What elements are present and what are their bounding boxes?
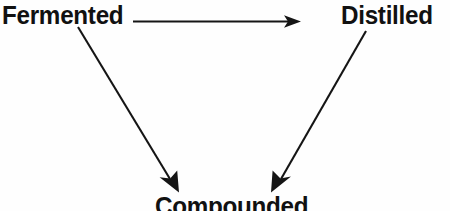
- edge-distilled-to-compounded: [271, 31, 366, 193]
- node-fermented: Fermented: [2, 3, 123, 28]
- node-compounded: Compounded: [155, 194, 308, 211]
- arrow-layer: [0, 0, 450, 211]
- edge-fermented-to-distilled: [133, 15, 301, 28]
- edge-fermented-to-compounded: [78, 27, 179, 193]
- flow-diagram: Fermented Distilled Compounded: [0, 0, 450, 211]
- edge-line-fermented-compounded: [78, 27, 170, 179]
- edge-line-distilled-compounded: [281, 31, 366, 179]
- node-distilled: Distilled: [341, 3, 433, 28]
- arrowhead-compounded-right: [271, 170, 291, 192]
- arrowhead-compounded-left: [160, 171, 179, 193]
